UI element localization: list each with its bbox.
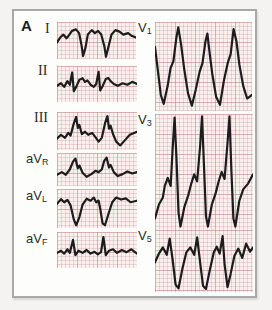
lead-label-text-I: I — [45, 21, 50, 36]
lead-label-text-aVF: aV — [26, 231, 42, 246]
lead-label-III: III — [34, 110, 48, 126]
ecg-trace-svg-III — [57, 112, 137, 150]
ecg-trace-svg-V3 — [155, 114, 253, 230]
ecg-trace-svg-V1 — [155, 22, 252, 111]
lead-label-II: II — [38, 63, 47, 79]
ecg-strip-aVR — [57, 153, 137, 186]
lead-label-subscript-aVL: L — [42, 194, 47, 204]
ecg-trace-aVF — [57, 237, 137, 255]
ecg-strip-III — [57, 112, 137, 150]
panel-label: A — [21, 17, 32, 34]
ecg-trace-aVL — [57, 198, 137, 226]
lead-label-subscript-V3: 3 — [147, 118, 152, 128]
ecg-trace-V3 — [155, 116, 253, 226]
ecg-strip-aVL — [57, 189, 137, 228]
lead-label-aVL: aVL — [26, 188, 47, 204]
lead-label-subscript-aVF: F — [42, 237, 48, 247]
lead-label-text-V1: V — [138, 20, 147, 35]
lead-label-aVR: aVR — [26, 151, 48, 167]
ecg-strip-I — [57, 22, 136, 59]
ecg-strip-V5 — [155, 230, 253, 292]
lead-label-text-V5: V — [138, 228, 147, 243]
lead-label-subscript-aVR: R — [42, 157, 49, 167]
ecg-trace-svg-I — [57, 22, 136, 59]
ecg-strip-II — [57, 66, 137, 102]
lead-label-subscript-V1: 1 — [147, 26, 152, 36]
lead-label-text-III: III — [34, 110, 48, 125]
ecg-trace-II — [57, 72, 137, 91]
lead-label-text-V3: V — [138, 112, 147, 127]
ecg-trace-V5 — [155, 236, 253, 289]
ecg-trace-aVR — [57, 158, 137, 177]
ecg-strip-aVF — [57, 232, 137, 268]
lead-label-text-aVR: aV — [26, 151, 42, 166]
ecg-strip-V3 — [155, 114, 253, 230]
ecg-trace-svg-aVR — [57, 153, 137, 186]
lead-label-text-II: II — [38, 63, 47, 78]
lead-label-aVF: aVF — [26, 231, 47, 247]
ecg-trace-svg-II — [57, 66, 137, 102]
ecg-trace-III — [57, 116, 137, 145]
ecg-trace-I — [57, 29, 136, 56]
ecg-strip-V1 — [155, 22, 252, 111]
lead-label-subscript-V5: 5 — [147, 234, 152, 244]
lead-label-V3: V3 — [138, 112, 152, 128]
ecg-trace-svg-aVF — [57, 232, 137, 268]
figure-page: A IIIIIIaVRaVLaVFV1V3V5 — [0, 0, 272, 310]
lead-label-V1: V1 — [138, 20, 152, 36]
ecg-trace-svg-V5 — [155, 230, 253, 292]
lead-label-V5: V5 — [138, 228, 152, 244]
lead-label-text-aVL: aV — [26, 188, 42, 203]
ecg-trace-svg-aVL — [57, 189, 137, 228]
lead-label-I: I — [45, 21, 50, 37]
ecg-trace-V1 — [155, 27, 252, 105]
